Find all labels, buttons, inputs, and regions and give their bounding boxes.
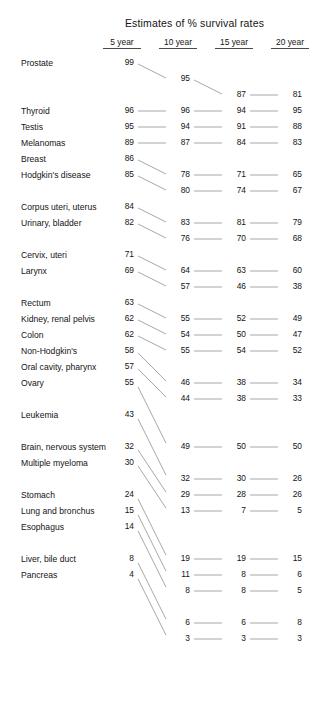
series-label: Urinary, bladder [21,218,82,228]
data-value: 65 [280,170,302,179]
data-value: 15 [112,506,134,515]
slope-line [138,466,166,508]
data-value: 62 [112,330,134,339]
slope-line [138,320,166,334]
data-value: 52 [280,346,302,355]
series-label: Kidney, renal pelvis [21,314,95,324]
data-value: 88 [280,122,302,131]
data-value: 58 [112,346,134,355]
data-value: 8 [168,586,190,595]
data-value: 30 [112,458,134,467]
column-header-y15: 15 year [215,37,253,49]
data-value: 26 [280,474,302,483]
data-value: 6 [168,618,190,627]
series-label: Cervix, uteri [21,250,67,260]
data-value: 68 [280,234,302,243]
slope-line [138,208,166,222]
data-value: 55 [112,378,134,387]
data-value: 46 [224,282,246,291]
data-value: 74 [224,186,246,195]
data-value: 85 [112,170,134,179]
column-header-y20: 20 year [271,37,309,49]
data-value: 80 [168,186,190,195]
series-label: Prostate [21,58,53,68]
series-label: Oral cavity, pharynx [21,362,96,372]
data-value: 96 [112,106,134,115]
slope-line [138,369,166,397]
slope-line [138,387,166,443]
data-value: 3 [280,634,302,643]
data-value: 14 [112,522,134,531]
series-label: Hodgkin's disease [21,170,90,180]
data-value: 44 [168,394,190,403]
slope-line [138,579,166,635]
data-value: 60 [280,266,302,275]
data-value: 94 [224,106,246,115]
data-value: 50 [224,330,246,339]
data-value: 6 [280,570,302,579]
series-label: Testis [21,122,43,132]
data-value: 6 [224,618,246,627]
data-value: 52 [224,314,246,323]
data-value: 4 [112,570,134,579]
data-value: 84 [224,138,246,147]
data-value: 43 [112,410,134,419]
data-value: 38 [224,378,246,387]
column-header-y5: 5 year [103,37,141,49]
data-value: 91 [224,122,246,131]
data-value: 83 [168,218,190,227]
data-value: 76 [168,234,190,243]
data-value: 7 [224,506,246,515]
series-label: Leukemia [21,410,58,420]
series-label: Liver, bile duct [21,554,76,564]
data-value: 95 [280,106,302,115]
data-value: 69 [112,266,134,275]
data-value: 19 [168,554,190,563]
series-label: Multiple myeloma [21,458,88,468]
series-label: Melanomas [21,138,65,148]
data-value: 29 [168,490,190,499]
slope-line [138,176,166,190]
data-value: 24 [112,490,134,499]
slope-line [138,531,166,587]
slope-line [138,499,166,555]
series-label: Larynx [21,266,47,276]
data-value: 5 [280,586,302,595]
series-label: Colon [21,330,43,340]
series-label: Brain, nervous system [21,442,106,452]
data-value: 32 [112,442,134,451]
data-value: 8 [280,618,302,627]
slope-line [138,353,166,381]
data-value: 11 [168,570,190,579]
slope-line [138,515,166,571]
data-value: 5 [280,506,302,515]
slope-line [138,419,166,475]
series-label: Non-Hodgkin's [21,346,77,356]
data-value: 3 [224,634,246,643]
column-header-y10: 10 year [159,37,197,49]
data-value: 81 [280,90,302,99]
data-value: 96 [168,106,190,115]
series-label: Stomach [21,490,55,500]
data-value: 67 [280,186,302,195]
data-value: 54 [224,346,246,355]
data-value: 99 [112,58,134,67]
series-label: Thyroid [21,106,50,116]
data-value: 87 [168,138,190,147]
data-value: 86 [112,154,134,163]
slope-line [138,224,166,238]
data-value: 13 [168,506,190,515]
data-value: 71 [112,250,134,259]
slope-line [138,272,166,286]
data-value: 63 [112,298,134,307]
data-value: 8 [224,586,246,595]
data-value: 3 [168,634,190,643]
data-value: 57 [168,282,190,291]
series-label: Rectum [21,298,51,308]
data-value: 64 [168,266,190,275]
slope-line [138,450,166,492]
data-value: 30 [224,474,246,483]
data-value: 47 [280,330,302,339]
data-value: 57 [112,362,134,371]
data-value: 33 [280,394,302,403]
